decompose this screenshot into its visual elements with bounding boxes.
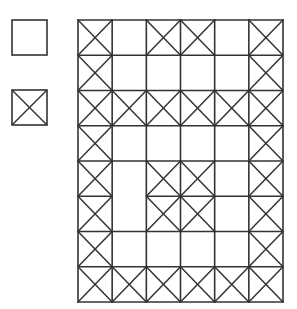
- crossed-cell: [215, 267, 249, 302]
- crossed-cell: [249, 161, 283, 196]
- crossed-cell: [146, 267, 180, 302]
- crossed-cell: [78, 267, 112, 302]
- crossed-cell: [146, 196, 180, 231]
- diagram-canvas: [0, 0, 297, 309]
- crossed-cell: [146, 20, 180, 55]
- crossed-cell: [78, 161, 112, 196]
- crossed-square-grid: [78, 20, 283, 302]
- crossed-cell: [249, 91, 283, 126]
- crossed-cell: [181, 20, 215, 55]
- crossed-cell: [249, 267, 283, 302]
- legend: [12, 20, 47, 125]
- crossed-cell: [146, 161, 180, 196]
- crossed-cell: [249, 55, 283, 90]
- crossed-cell: [215, 91, 249, 126]
- crossed-cell: [78, 20, 112, 55]
- legend-crossed-square-icon: [12, 90, 47, 125]
- legend-empty-square-icon: [12, 20, 47, 55]
- crossed-cell: [181, 161, 215, 196]
- crossed-cell: [249, 196, 283, 231]
- crossed-cell: [78, 55, 112, 90]
- crossed-cell: [181, 91, 215, 126]
- crossed-cell: [146, 91, 180, 126]
- crossed-cell: [181, 196, 215, 231]
- crossed-cell: [78, 196, 112, 231]
- crossed-cell: [249, 126, 283, 161]
- crossed-cell: [78, 126, 112, 161]
- crossed-cell: [78, 232, 112, 267]
- crossed-cell: [78, 91, 112, 126]
- crossed-cell: [249, 232, 283, 267]
- crossed-cell: [249, 20, 283, 55]
- crossed-cell: [181, 267, 215, 302]
- grid-lines: [78, 20, 283, 302]
- crossed-cell: [112, 267, 146, 302]
- crossed-cell: [112, 91, 146, 126]
